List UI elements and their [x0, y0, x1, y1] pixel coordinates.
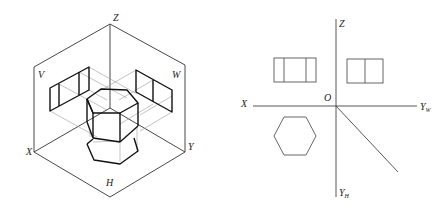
- v-plane-view: [50, 67, 89, 111]
- v-plane-outline: [34, 24, 185, 152]
- 45-degree-line: [336, 106, 398, 172]
- projection-diagram: Z X Y V W H Z X O YW YH: [0, 0, 447, 215]
- isometric-figure: Z X Y V W H: [25, 12, 195, 197]
- label-h-plane: H: [105, 177, 114, 188]
- label-v-plane: V: [38, 69, 46, 80]
- hexagonal-prism: [87, 89, 138, 142]
- label-yh: YH: [339, 187, 350, 199]
- label-x: X: [240, 98, 248, 109]
- top-view-hexagon: [274, 117, 316, 155]
- label-z: Z: [113, 12, 119, 23]
- label-yw: YW: [420, 101, 432, 113]
- label-z: Z: [339, 18, 345, 29]
- front-view: [274, 58, 316, 82]
- label-w-plane: W: [172, 69, 182, 80]
- w-plane-view: [136, 70, 172, 112]
- label-x: X: [25, 146, 33, 157]
- label-y: Y: [188, 141, 195, 152]
- side-view: [347, 59, 383, 83]
- orthographic-figure: Z X O YW YH: [240, 18, 432, 199]
- label-origin: O: [324, 92, 331, 103]
